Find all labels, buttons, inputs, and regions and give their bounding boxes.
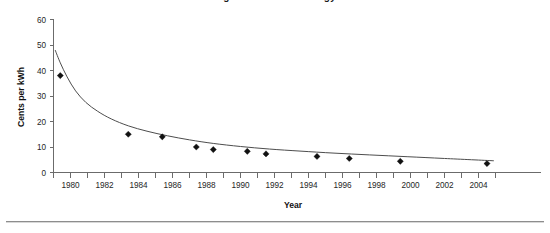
y-axis: 0102030405060 bbox=[37, 16, 54, 178]
data-point bbox=[346, 155, 352, 161]
data-point bbox=[210, 146, 216, 152]
data-point bbox=[57, 73, 63, 79]
data-point bbox=[314, 153, 320, 159]
energy-cost-scatter-chart: 0102030405060 19801982198419861988199019… bbox=[0, 0, 550, 220]
x-axis-tick-labels: 1980198219841986198819901992199419961998… bbox=[61, 181, 488, 190]
data-point bbox=[263, 151, 269, 157]
data-point bbox=[193, 144, 199, 150]
data-point-markers bbox=[57, 73, 490, 167]
y-tick-label: 20 bbox=[37, 118, 47, 127]
y-tick-label: 50 bbox=[37, 41, 47, 50]
x-tick-label: 2004 bbox=[469, 181, 488, 190]
y-tick-label: 40 bbox=[37, 67, 47, 76]
x-tick-label: 2002 bbox=[435, 181, 454, 190]
y-tick-label: 30 bbox=[37, 92, 47, 101]
x-tick-label: 1988 bbox=[197, 181, 216, 190]
y-axis-title: Cents per kWh bbox=[16, 67, 26, 127]
x-tick-label: 1980 bbox=[61, 181, 80, 190]
x-tick-label: 1986 bbox=[163, 181, 182, 190]
chart-figure: Figure — Cost of Energy 0102030405060 19… bbox=[0, 0, 550, 233]
x-tick-label: 1990 bbox=[231, 181, 250, 190]
x-tick-label: 1982 bbox=[95, 181, 114, 190]
x-tick-label: 1994 bbox=[299, 181, 318, 190]
x-axis-minor-ticks bbox=[54, 173, 496, 178]
x-tick-label: 1984 bbox=[129, 181, 148, 190]
data-point bbox=[484, 160, 490, 166]
data-point bbox=[244, 148, 250, 154]
x-tick-label: 2000 bbox=[401, 181, 420, 190]
x-tick-label: 1992 bbox=[265, 181, 284, 190]
y-axis-tick-labels: 0102030405060 bbox=[37, 16, 47, 178]
data-point bbox=[397, 158, 403, 164]
y-tick-label: 10 bbox=[37, 143, 47, 152]
x-axis-title: Year bbox=[284, 200, 303, 210]
y-axis-ticks bbox=[50, 20, 54, 173]
data-point bbox=[125, 131, 131, 137]
trend-curve bbox=[55, 50, 494, 161]
x-axis: 1980198219841986198819901992199419961998… bbox=[54, 173, 541, 191]
y-tick-label: 60 bbox=[37, 16, 47, 25]
x-tick-label: 1998 bbox=[367, 181, 386, 190]
y-tick-label: 0 bbox=[41, 169, 46, 178]
figure-bottom-rule bbox=[6, 221, 544, 223]
x-tick-label: 1996 bbox=[333, 181, 352, 190]
